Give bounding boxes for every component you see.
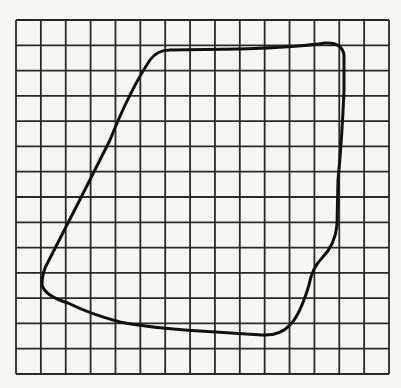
grid-figure bbox=[0, 0, 401, 388]
